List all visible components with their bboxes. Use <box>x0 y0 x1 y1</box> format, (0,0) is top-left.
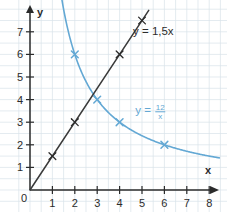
x-tick-label: 4 <box>117 197 123 209</box>
y-tick-label: 3 <box>17 116 23 128</box>
y-tick-label: 1 <box>17 161 23 173</box>
x-tick-label: 1 <box>49 197 55 209</box>
y-tick-label: 6 <box>17 48 23 60</box>
linear-equation-label: y = 1,5x <box>133 25 174 37</box>
hyperbola-equation-text: y = <box>135 104 151 116</box>
y-tick-label: 4 <box>17 94 23 106</box>
y-axis-label: y <box>37 6 44 18</box>
x-tick-label: 2 <box>72 197 78 209</box>
coordinate-plot: 12345678 1234567 0 x y y = 1,5x y = 12 x <box>0 0 227 212</box>
y-tick-label: 5 <box>17 71 23 83</box>
y-tick-label: 7 <box>17 26 23 38</box>
graph-figure: 12345678 1234567 0 x y y = 1,5x y = 12 x <box>0 0 227 212</box>
x-tick-label: 6 <box>161 197 167 209</box>
hyperbola-fraction-numerator: 12 <box>156 103 165 112</box>
x-tick-label: 7 <box>184 197 190 209</box>
x-tick-label: 5 <box>139 197 145 209</box>
y-tick-label: 2 <box>17 139 23 151</box>
x-axis-label: x <box>205 164 212 176</box>
x-tick-label: 3 <box>94 197 100 209</box>
origin-label: 0 <box>21 192 27 204</box>
hyperbola-fraction-denominator: x <box>158 112 162 121</box>
x-tick-label: 8 <box>206 197 212 209</box>
